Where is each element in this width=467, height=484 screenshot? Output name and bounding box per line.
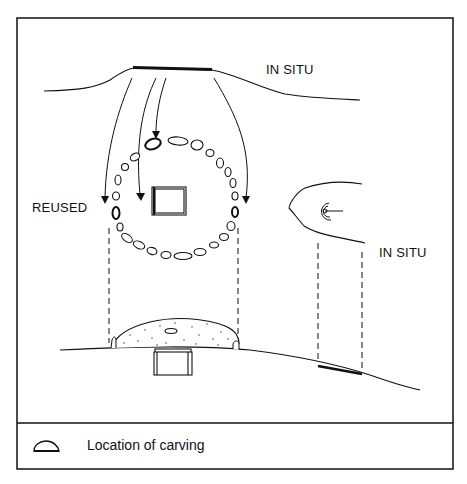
label-in-situ-top: IN SITU bbox=[266, 62, 314, 77]
top-carving-location bbox=[133, 68, 212, 70]
cup-and-ring-icon bbox=[321, 203, 343, 220]
cairn-kerb-left bbox=[111, 337, 116, 348]
cairn-carved-stone bbox=[165, 329, 177, 334]
cairn-kerb-right bbox=[233, 341, 239, 350]
stone-circle bbox=[113, 136, 239, 259]
cist-section bbox=[154, 349, 192, 375]
ground-profile bbox=[60, 347, 420, 390]
carving-location-icon bbox=[34, 441, 59, 451]
right-outcrop-plan bbox=[289, 182, 365, 243]
label-reused: REUSED bbox=[32, 200, 87, 215]
diagram-canvas bbox=[0, 0, 467, 484]
label-in-situ-right: IN SITU bbox=[379, 245, 427, 260]
projection-lines-right bbox=[318, 243, 362, 370]
legend-text: Location of carving bbox=[87, 437, 205, 453]
outer-frame bbox=[17, 18, 453, 469]
central-cist-plan bbox=[152, 187, 186, 215]
